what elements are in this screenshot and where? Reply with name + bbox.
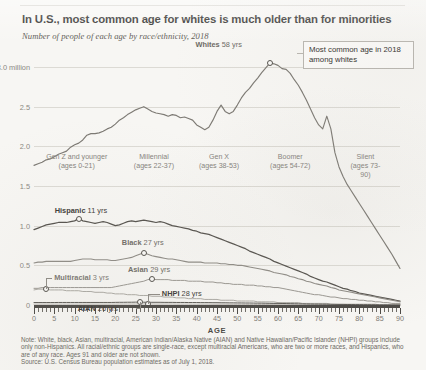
x-axis-minor-tick: [372, 308, 373, 312]
x-axis-minor-tick: [384, 308, 385, 312]
x-axis-tick-label: 0: [32, 314, 36, 323]
top-divider: [20, 5, 405, 6]
x-axis-major-tick: [359, 308, 360, 314]
x-axis-minor-tick: [315, 308, 316, 312]
series-label-aian-name: AIAN: [78, 304, 96, 313]
x-axis-minor-tick: [274, 308, 275, 312]
x-axis-minor-tick: [294, 308, 295, 312]
x-axis-minor-tick: [132, 308, 133, 312]
page-title: In U.S., most common age for whites is m…: [22, 13, 412, 26]
x-axis-tick-label: 50: [233, 314, 241, 323]
x-axis-minor-tick: [388, 308, 389, 312]
series-label-nhpi-value: 28 yrs: [182, 289, 202, 298]
x-axis-major-tick: [278, 308, 279, 314]
x-axis-tick-label: 55: [254, 314, 262, 323]
x-axis-minor-tick: [168, 308, 169, 312]
generation-ages: (ages 22-37): [134, 162, 174, 171]
x-axis-minor-tick: [128, 308, 129, 312]
x-axis-minor-tick: [140, 308, 141, 312]
series-label-black-value: 27 yrs: [144, 238, 164, 247]
x-axis-major-tick: [34, 308, 35, 314]
series-label-whites: Whites 58 yrs: [195, 41, 241, 49]
x-axis-minor-tick: [193, 308, 194, 312]
x-axis-minor-tick: [311, 308, 312, 312]
x-axis-tick-label: 15: [91, 314, 99, 323]
x-axis-minor-tick: [233, 308, 234, 312]
multiracial-leader-stem: [46, 278, 47, 289]
series-label-hispanic: Hispanic 11 yrs: [55, 207, 107, 215]
x-axis-major-tick: [176, 308, 177, 314]
x-axis-minor-tick: [148, 308, 149, 312]
series-label-asian-name: Asian: [128, 265, 148, 274]
x-axis-tick-label: 5: [52, 314, 56, 323]
x-axis-minor-tick: [205, 308, 206, 312]
x-axis-major-tick: [380, 308, 381, 314]
y-axis-tick-label: 2.0: [20, 142, 30, 151]
x-axis-minor-tick: [262, 308, 263, 312]
generation-name: Millennial: [134, 153, 174, 162]
x-axis-minor-tick: [355, 308, 356, 312]
x-axis-minor-tick: [42, 308, 43, 312]
x-axis-minor-tick: [71, 308, 72, 312]
x-axis-minor-tick: [351, 308, 352, 312]
x-axis-minor-tick: [229, 308, 230, 312]
x-axis-major-tick: [217, 308, 218, 314]
peak-marker-black: [141, 250, 147, 256]
x-axis-minor-tick: [213, 308, 214, 312]
series-label-multiracial: Multiracial 3 yrs: [54, 274, 109, 282]
x-axis-tick-label: 65: [294, 314, 302, 323]
series-label-multiracial-name: Multiracial: [54, 273, 91, 282]
x-axis-minor-tick: [119, 308, 120, 312]
x-axis-minor-tick: [164, 308, 165, 312]
peak-marker-whites: [267, 60, 273, 66]
x-axis-minor-tick: [335, 308, 336, 312]
x-axis-tick-label: 10: [71, 314, 79, 323]
chart-page: In U.S., most common age for whites is m…: [0, 0, 426, 370]
generation-ages: (ages 54-72): [270, 162, 310, 171]
x-axis-minor-tick: [343, 308, 344, 312]
y-axis-tick-label: 3.0 million: [0, 63, 30, 72]
x-axis-minor-tick: [62, 308, 63, 312]
x-axis-minor-tick: [184, 308, 185, 312]
x-axis-major-tick: [298, 308, 299, 314]
series-label-whites-value: 58 yrs: [222, 40, 242, 49]
x-axis-minor-tick: [67, 308, 68, 312]
series-label-whites-name: Whites: [195, 40, 219, 49]
x-axis-minor-tick: [189, 308, 190, 312]
generation-label-millennial: Millennial(ages 22-37): [134, 153, 174, 171]
generation-label-silent: Silent(ages 73-90): [348, 153, 383, 180]
x-axis-minor-tick: [270, 308, 271, 312]
x-axis-minor-tick: [123, 308, 124, 312]
series-label-multiracial-value: 3 yrs: [93, 273, 109, 282]
generation-ages: (ages 0-21): [46, 162, 107, 171]
x-axis-minor-tick: [376, 308, 377, 312]
x-axis-minor-tick: [363, 308, 364, 312]
x-axis-minor-tick: [180, 308, 181, 312]
x-axis-major-tick: [75, 308, 76, 314]
peak-marker-hispanic: [76, 216, 82, 222]
series-label-nhpi-name: NHPI: [162, 289, 180, 298]
x-axis-minor-tick: [38, 308, 39, 312]
x-axis-minor-tick: [392, 308, 393, 312]
chart-source: Source: U.S. Census Bureau population es…: [21, 358, 413, 365]
x-axis-minor-tick: [327, 308, 328, 312]
x-axis-major-tick: [54, 308, 55, 314]
series-label-hispanic-name: Hispanic: [55, 206, 86, 215]
x-axis-major-tick: [400, 308, 401, 314]
series-label-hispanic-value: 11 yrs: [88, 206, 108, 215]
x-axis-minor-tick: [209, 308, 210, 312]
x-axis-tick-label: 80: [355, 314, 363, 323]
series-label-aian-value: 26 yrs: [98, 304, 118, 313]
x-axis-minor-tick: [396, 308, 397, 312]
x-axis-minor-tick: [152, 308, 153, 312]
x-axis-minor-tick: [245, 308, 246, 312]
x-axis-minor-tick: [323, 308, 324, 312]
generation-ages: (ages 73-90): [348, 162, 383, 180]
x-axis-tick-label: 30: [152, 314, 160, 323]
x-axis-minor-tick: [221, 308, 222, 312]
x-axis-minor-tick: [241, 308, 242, 312]
x-axis-tick-label: 60: [274, 314, 282, 323]
generation-label-gen-x: Gen X(ages 38-53): [199, 153, 239, 171]
x-axis-tick-label: 45: [213, 314, 221, 323]
series-line-hispanic: [34, 219, 400, 302]
